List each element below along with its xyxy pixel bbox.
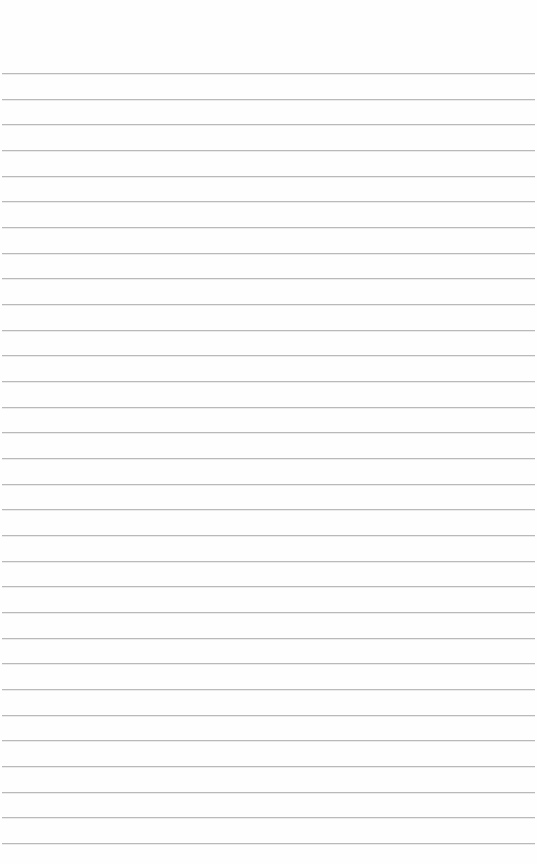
ruled-line (2, 73, 535, 74)
ruled-line (2, 99, 535, 100)
ruled-line (2, 330, 535, 331)
ruled-line (2, 432, 535, 433)
ruled-line (2, 484, 535, 485)
lined-paper-page (0, 0, 537, 864)
ruled-line (2, 843, 535, 844)
ruled-line (2, 715, 535, 716)
ruled-line (2, 509, 535, 510)
ruled-line (2, 407, 535, 408)
ruled-line (2, 638, 535, 639)
ruled-line (2, 663, 535, 664)
ruled-line (2, 612, 535, 613)
ruled-line (2, 278, 535, 279)
ruled-line (2, 689, 535, 690)
ruled-line (2, 176, 535, 177)
ruled-line (2, 201, 535, 202)
ruled-line (2, 253, 535, 254)
ruled-line (2, 740, 535, 741)
ruled-line (2, 304, 535, 305)
ruled-line (2, 535, 535, 536)
ruled-line (2, 124, 535, 125)
ruled-line (2, 150, 535, 151)
ruled-line (2, 766, 535, 767)
ruled-line (2, 227, 535, 228)
ruled-line (2, 458, 535, 459)
ruled-line (2, 381, 535, 382)
ruled-line (2, 586, 535, 587)
ruled-line (2, 792, 535, 793)
ruled-line (2, 561, 535, 562)
ruled-line (2, 817, 535, 818)
ruled-line (2, 355, 535, 356)
